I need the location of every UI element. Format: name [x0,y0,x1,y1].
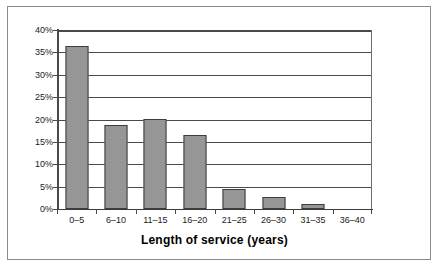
chart-figure: 0%5%10%15%20%25%30%35%40% 0–56–1011–1516… [0,0,438,268]
x-axis-labels: 0–56–1011–1516–2021–2526–3031–3536–40 [57,214,372,230]
bar-slot [333,30,372,209]
bar [183,135,206,209]
x-tick-label: 11–15 [143,214,167,226]
y-tick-label: 30% [5,71,53,80]
bar [105,125,128,209]
x-axis-title: Length of service (years) [57,233,372,247]
bar-slot [57,30,96,209]
bar-slot [136,30,175,209]
bar-slot [215,30,254,209]
y-tick-label: 20% [5,116,53,125]
x-tick-label: 31–35 [300,214,325,226]
y-tick-label: 5% [5,183,53,192]
x-tick-label: 0–5 [69,214,84,226]
bar-slot [293,30,332,209]
x-tick-label: 6–10 [106,214,126,226]
bar [262,197,285,209]
x-tick-label: 21–25 [222,214,247,226]
y-tick-label: 25% [5,93,53,102]
y-tick-label: 10% [5,160,53,169]
bar [65,46,88,209]
x-tick-label: 36–40 [340,214,365,226]
bar-slot [96,30,135,209]
y-tick-label: 40% [5,26,53,35]
y-tick-label: 35% [5,48,53,57]
x-tick-label: 16–20 [182,214,207,226]
y-axis: 0%5%10%15%20%25%30%35%40% [0,0,53,268]
bar-slot [254,30,293,209]
bar [144,119,167,209]
y-tick-label: 15% [5,138,53,147]
bar [223,189,246,209]
y-tick-label: 0% [5,205,53,214]
bar-slot [175,30,214,209]
x-tick-label: 26–30 [261,214,286,226]
bar-series [57,30,372,209]
